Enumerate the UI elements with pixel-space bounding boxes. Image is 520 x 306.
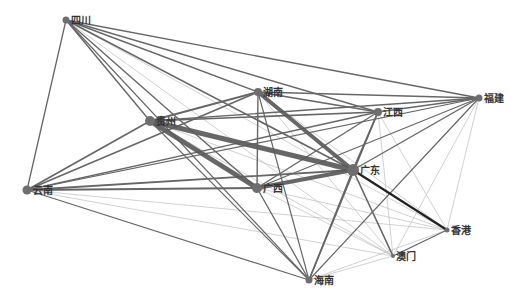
node-label-yunnan: 云南: [33, 184, 53, 196]
node-label-jiangxi: 江西: [383, 106, 403, 118]
edge-sichuan-hunan: [66, 20, 258, 92]
network-diagram: 四川贵州湖南江西福建广东广西云南香港澳门海南: [0, 0, 520, 306]
node-label-guizhou: 贵州: [156, 115, 176, 127]
node-fujian: [476, 95, 483, 102]
node-label-guangdong: 广东: [360, 164, 380, 176]
edge-yunnan-guizhou: [27, 121, 150, 190]
node-label-fujian: 福建: [483, 92, 505, 104]
edge-sichuan-jiangxi: [66, 20, 378, 112]
node-jiangxi: [374, 108, 382, 116]
edge-guizhou-hongkong: [150, 121, 447, 230]
edge-guangdong-hainan: [309, 170, 353, 280]
node-macau: [391, 254, 395, 258]
node-hunan: [254, 88, 262, 96]
node-sichuan: [63, 17, 70, 24]
edge-yunnan-macau: [27, 190, 393, 256]
node-hainan: [306, 277, 313, 284]
edge-sichuan-guangdong: [66, 20, 353, 170]
node-guizhou: [145, 116, 155, 126]
node-guangxi: [252, 183, 262, 193]
node-hongkong: [445, 228, 450, 233]
node-label-macau: 澳门: [396, 250, 416, 262]
node-yunnan: [23, 186, 32, 195]
edge-fujian-guangdong: [353, 98, 479, 170]
node-label-hainan: 海南: [314, 274, 334, 286]
edge-sichuan-hongkong: [66, 20, 447, 230]
node-label-hongkong: 香港: [451, 224, 472, 236]
node-layer: [23, 17, 483, 284]
node-guangdong: [347, 164, 359, 176]
edge-sichuan-yunnan: [27, 20, 66, 190]
edge-hunan-guangxi: [257, 92, 258, 188]
node-label-sichuan: 四川: [71, 15, 91, 26]
edge-layer: [27, 20, 479, 280]
edge-fujian-hongkong: [447, 98, 479, 230]
node-label-hunan: 湖南: [263, 86, 283, 98]
node-label-guangxi: 广西: [263, 182, 283, 194]
